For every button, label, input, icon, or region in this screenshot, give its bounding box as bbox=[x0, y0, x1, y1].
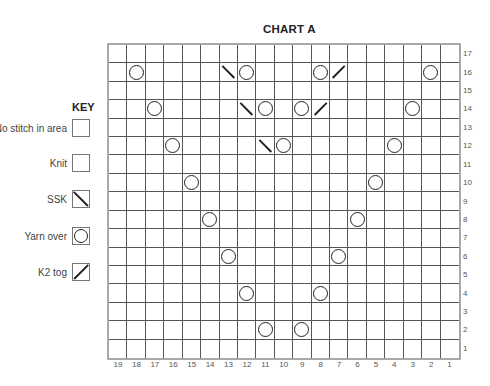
chart-cell bbox=[164, 211, 182, 229]
chart-cell bbox=[293, 100, 311, 118]
chart-cell bbox=[330, 119, 348, 137]
chart-cell bbox=[109, 174, 127, 192]
chart-cell bbox=[422, 248, 440, 266]
chart-cell bbox=[220, 211, 238, 229]
chart-cell bbox=[201, 266, 219, 284]
row-number-label: 4 bbox=[463, 289, 467, 298]
row-number-label: 5 bbox=[463, 270, 467, 279]
chart-cell bbox=[201, 119, 219, 137]
chart-cell bbox=[348, 82, 366, 100]
chart-cell bbox=[404, 284, 422, 302]
chart-cell bbox=[293, 229, 311, 247]
chart-cell bbox=[164, 100, 182, 118]
row-number-label: 13 bbox=[463, 123, 472, 132]
chart-cell bbox=[275, 266, 293, 284]
chart-cell bbox=[404, 155, 422, 173]
chart-cell bbox=[422, 174, 440, 192]
chart-cell bbox=[164, 266, 182, 284]
chart-cell bbox=[109, 192, 127, 210]
chart-cell bbox=[441, 340, 459, 358]
chart-cell bbox=[201, 340, 219, 358]
column-number-label: 13 bbox=[220, 360, 238, 369]
chart-cell bbox=[367, 82, 385, 100]
column-number-label: 7 bbox=[330, 360, 348, 369]
chart-cell bbox=[422, 63, 440, 81]
chart-cell bbox=[330, 100, 348, 118]
chart-cell bbox=[127, 82, 145, 100]
yarn-over-icon bbox=[387, 138, 402, 153]
chart-cell bbox=[367, 284, 385, 302]
chart-cell bbox=[183, 303, 201, 321]
chart-cell bbox=[404, 211, 422, 229]
chart-cell bbox=[220, 284, 238, 302]
column-number-label: 16 bbox=[164, 360, 182, 369]
chart-cell bbox=[422, 137, 440, 155]
chart-cell bbox=[441, 63, 459, 81]
chart-cell bbox=[404, 192, 422, 210]
chart-cell bbox=[293, 174, 311, 192]
chart-cell bbox=[238, 100, 256, 118]
chart-cell bbox=[385, 45, 403, 63]
chart-cell bbox=[238, 192, 256, 210]
k2tog-icon bbox=[72, 263, 90, 281]
chart-cell bbox=[220, 63, 238, 81]
chart-cell bbox=[293, 321, 311, 339]
chart-cell bbox=[238, 45, 256, 63]
chart-cell bbox=[183, 45, 201, 63]
chart-cell bbox=[441, 321, 459, 339]
column-number-label: 14 bbox=[201, 360, 219, 369]
yarn-over-icon bbox=[129, 65, 144, 80]
chart-cell bbox=[164, 137, 182, 155]
chart-cell bbox=[146, 340, 164, 358]
chart-cell bbox=[127, 229, 145, 247]
chart-cell bbox=[164, 321, 182, 339]
chart-cell bbox=[146, 155, 164, 173]
chart-cell bbox=[201, 45, 219, 63]
chart-cell bbox=[367, 211, 385, 229]
chart-cell bbox=[441, 211, 459, 229]
chart-cell bbox=[404, 303, 422, 321]
yarn-over-icon bbox=[184, 175, 199, 190]
chart-title: CHART A bbox=[263, 23, 316, 35]
chart-cell bbox=[422, 340, 440, 358]
chart-cell bbox=[109, 321, 127, 339]
chart-cell bbox=[256, 321, 274, 339]
chart-cell bbox=[164, 155, 182, 173]
chart-cell bbox=[312, 229, 330, 247]
chart-cell bbox=[312, 63, 330, 81]
chart-cell bbox=[312, 45, 330, 63]
chart-cell bbox=[127, 45, 145, 63]
chart-cell bbox=[348, 100, 366, 118]
key-label: K2 tog bbox=[38, 267, 67, 278]
chart-cell bbox=[146, 82, 164, 100]
chart-cell bbox=[127, 266, 145, 284]
chart-cell bbox=[146, 229, 164, 247]
chart-cell bbox=[367, 266, 385, 284]
chart-cell bbox=[312, 303, 330, 321]
row-number-label: 8 bbox=[463, 215, 467, 224]
chart-cell bbox=[312, 137, 330, 155]
chart-cell bbox=[275, 211, 293, 229]
chart-cell bbox=[293, 211, 311, 229]
key-title: KEY bbox=[72, 101, 95, 113]
chart-cell bbox=[275, 284, 293, 302]
chart-cell bbox=[367, 303, 385, 321]
chart-cell bbox=[275, 303, 293, 321]
chart-cell bbox=[127, 321, 145, 339]
row-number-label: 10 bbox=[463, 178, 472, 187]
chart-cell bbox=[348, 284, 366, 302]
chart-cell bbox=[275, 45, 293, 63]
chart-cell bbox=[275, 82, 293, 100]
chart-cell bbox=[312, 321, 330, 339]
key-item-yo: Yarn over bbox=[24, 227, 90, 245]
chart-cell bbox=[256, 119, 274, 137]
row-number-label: 17 bbox=[463, 49, 472, 58]
chart-cell bbox=[441, 248, 459, 266]
chart-cell bbox=[441, 100, 459, 118]
chart-cell bbox=[164, 82, 182, 100]
chart-cell bbox=[238, 266, 256, 284]
yarn-over-icon bbox=[147, 101, 162, 116]
yarn-over-icon bbox=[368, 175, 383, 190]
chart-cell bbox=[220, 100, 238, 118]
chart-cell bbox=[238, 248, 256, 266]
